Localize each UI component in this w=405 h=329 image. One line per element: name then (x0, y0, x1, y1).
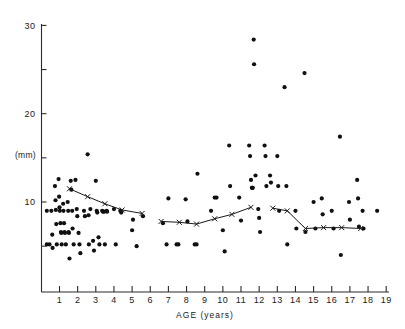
data-point (47, 242, 51, 246)
data-point (355, 178, 359, 182)
data-point (356, 196, 360, 200)
data-point (92, 248, 96, 252)
data-point (86, 152, 90, 156)
data-point (263, 154, 267, 158)
x-tick-label-17: 17 (344, 295, 355, 305)
data-point (293, 209, 297, 213)
data-point (49, 209, 53, 213)
data-point (95, 211, 99, 215)
data-point (57, 195, 61, 199)
data-point (72, 242, 76, 246)
data-point (253, 173, 257, 177)
data-point (269, 180, 273, 184)
data-point (45, 209, 49, 213)
data-point (166, 196, 170, 200)
data-point (275, 154, 279, 158)
data-point (73, 178, 77, 182)
data-point (61, 209, 65, 213)
data-point (221, 228, 225, 232)
data-point (294, 226, 298, 230)
x-tick-label-5: 5 (129, 295, 135, 305)
data-point (268, 173, 272, 177)
data-point (252, 37, 256, 41)
data-point (50, 233, 54, 237)
mean-line-segment (273, 208, 361, 228)
data-point (248, 154, 252, 158)
data-point (130, 228, 134, 232)
data-point (75, 207, 79, 211)
data-point (103, 242, 107, 246)
data-point (69, 179, 73, 183)
data-point (282, 85, 286, 89)
mean-line-segment (161, 207, 251, 224)
data-point (312, 200, 316, 204)
data-point (257, 216, 261, 220)
data-point (64, 242, 68, 246)
data-point (164, 242, 168, 246)
data-point (264, 184, 268, 188)
y-tick-label-10: 10 (24, 197, 35, 207)
data-point (239, 218, 243, 222)
mean-curve-group (67, 186, 363, 231)
data-point (331, 226, 335, 230)
x-tick-label-10: 10 (217, 295, 228, 305)
data-point (94, 179, 98, 183)
x-tick-label-7: 7 (166, 295, 172, 305)
data-point (237, 195, 241, 199)
data-point (252, 62, 256, 66)
data-point (66, 209, 70, 213)
data-point (67, 231, 71, 235)
data-point (228, 184, 232, 188)
x-tick-label-12: 12 (254, 295, 265, 305)
y-tick-label-30: 30 (24, 21, 35, 31)
data-point (361, 209, 365, 213)
data-point (53, 198, 57, 202)
x-tick-label-18: 18 (363, 295, 374, 305)
data-point (105, 210, 109, 214)
data-point (285, 242, 289, 246)
x-tick-label-9: 9 (202, 295, 208, 305)
data-point (51, 246, 55, 250)
mean-marker-x (248, 205, 253, 210)
data-point (78, 251, 82, 255)
data-point (184, 197, 188, 201)
data-point (97, 242, 101, 246)
data-point (77, 242, 81, 246)
data-point (55, 242, 59, 246)
data-point (62, 221, 66, 225)
data-point (135, 244, 139, 248)
data-point (63, 231, 67, 235)
data-point (194, 242, 198, 246)
data-point (76, 231, 80, 235)
data-point (258, 230, 262, 234)
data-point (338, 135, 342, 139)
data-point (256, 207, 260, 211)
data-point (339, 253, 343, 257)
x-tick-label-14: 14 (290, 295, 301, 305)
data-point (60, 242, 64, 246)
data-point (91, 239, 95, 243)
y-tick-marks (42, 25, 47, 246)
x-tick-label-1: 1 (57, 295, 63, 305)
data-point (83, 214, 87, 218)
data-point (176, 242, 180, 246)
data-point (58, 221, 62, 225)
x-tick-label-15: 15 (308, 295, 319, 305)
x-tick-label-13: 13 (272, 295, 283, 305)
data-point (302, 71, 306, 75)
x-tick-label-3: 3 (93, 295, 99, 305)
data-point (247, 143, 251, 147)
data-point (251, 186, 255, 190)
data-point (330, 209, 334, 213)
data-point (88, 207, 92, 211)
y-axis-unit-label: (mm) (15, 150, 36, 160)
data-point (61, 202, 65, 206)
data-point (56, 177, 60, 181)
data-point (320, 196, 324, 200)
data-point (375, 209, 379, 213)
data-point (82, 209, 86, 213)
data-point (114, 242, 118, 246)
y-tick-labels: 102030 (24, 21, 35, 208)
x-tick-label-19: 19 (381, 295, 392, 305)
x-tick-label-8: 8 (184, 295, 190, 305)
